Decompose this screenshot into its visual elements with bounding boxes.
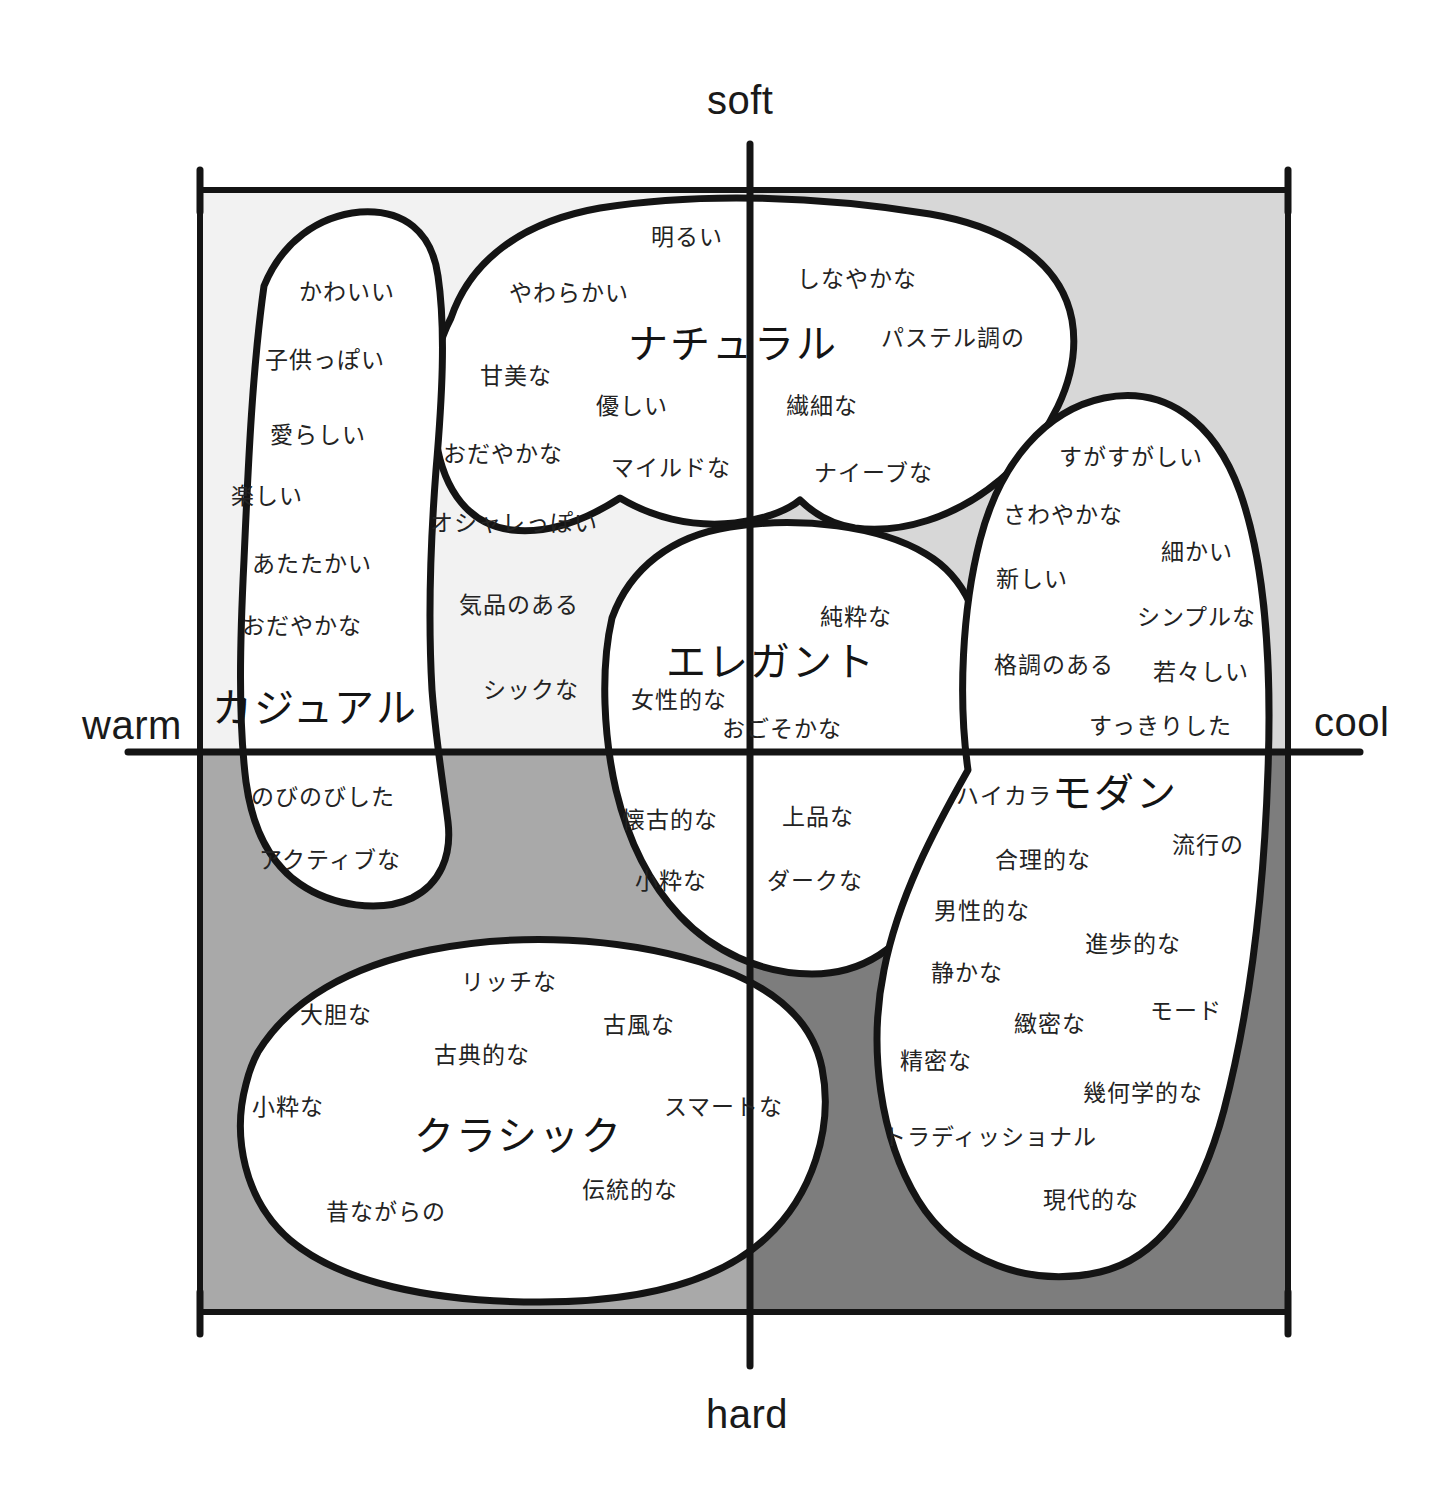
axis-label-soft: soft — [707, 78, 773, 123]
term-word: さわやかな — [1003, 496, 1123, 530]
region-name-classic: クラシック — [414, 1104, 623, 1162]
region-name-modern: モダン — [1052, 761, 1178, 819]
term-word: 小粋な — [635, 862, 707, 896]
term-word: 合理的な — [995, 841, 1091, 875]
term-word: 新しい — [996, 560, 1068, 594]
term-word: 明るい — [651, 218, 723, 252]
term-word: シックな — [483, 671, 579, 705]
term-word: のびのびした — [251, 778, 395, 812]
term-word: 静かな — [931, 954, 1003, 988]
term-word: 楽しい — [231, 477, 303, 511]
term-word: 愛らしい — [270, 416, 366, 450]
region-name-casual: カジュアル — [212, 676, 418, 734]
term-word: 幾何学的な — [1083, 1074, 1203, 1108]
axis-label-cool: cool — [1314, 700, 1389, 745]
term-word: ダークな — [767, 862, 863, 896]
axis-label-hard: hard — [706, 1392, 788, 1437]
term-word: やわらかい — [509, 274, 629, 308]
term-word: 上品な — [782, 798, 854, 832]
term-word: おごそかな — [722, 710, 842, 744]
term-word: 伝統的な — [582, 1171, 678, 1205]
term-word: 現代的な — [1043, 1181, 1139, 1215]
term-word: 緻密な — [1014, 1005, 1086, 1039]
term-word: 気品のある — [459, 586, 579, 620]
term-word: ハイカラ — [956, 777, 1052, 811]
term-word: トラディッショナル — [883, 1118, 1097, 1152]
term-word: おだやかな — [443, 435, 563, 469]
term-word: 女性的な — [631, 681, 727, 715]
term-word: 懐古的な — [622, 801, 718, 835]
term-word: 格調のある — [994, 646, 1114, 680]
term-word: 大胆な — [300, 996, 372, 1030]
term-word: モード — [1150, 992, 1222, 1026]
term-word: シンプルな — [1137, 598, 1256, 632]
term-word: 子供っぽい — [265, 341, 385, 375]
term-word: 甘美な — [480, 357, 552, 391]
term-word: 優しい — [596, 387, 668, 421]
term-word: 純粋な — [820, 598, 892, 632]
term-word: アクティブな — [259, 841, 401, 875]
term-word: パステル調の — [881, 319, 1025, 353]
axis-label-warm: warm — [82, 703, 182, 748]
term-word: すっきりした — [1089, 707, 1232, 741]
term-word: すがすがしい — [1059, 438, 1203, 472]
term-word: 細かい — [1161, 533, 1233, 567]
term-word: スマートな — [664, 1088, 783, 1122]
term-word: 小粋な — [252, 1088, 324, 1122]
term-word: 男性的な — [934, 892, 1030, 926]
term-word: 進歩的な — [1085, 925, 1181, 959]
term-word: 繊細な — [786, 387, 858, 421]
term-word: 若々しい — [1153, 653, 1249, 687]
term-word: しなやかな — [797, 260, 917, 294]
term-word: あたたかい — [252, 545, 372, 579]
term-word: リッチな — [461, 963, 557, 997]
term-word: 昔ながらの — [326, 1193, 446, 1227]
term-word: オシャレっぽい — [430, 504, 598, 538]
term-word: 精密な — [900, 1042, 972, 1076]
term-word: ナイーブな — [814, 454, 933, 488]
region-name-natural: ナチュラル — [628, 312, 838, 370]
scale-canvas — [0, 0, 1453, 1501]
term-word: マイルドな — [611, 449, 731, 483]
term-word: 古風な — [603, 1006, 675, 1040]
term-word: おだやかな — [242, 607, 362, 641]
term-word: 流行の — [1172, 826, 1244, 860]
term-word: かわいい — [299, 273, 395, 307]
term-word: 古典的な — [434, 1036, 530, 1070]
image-scale-diagram: soft hard warm cool カジュアルかわいい子供っぽい愛らしい楽し… — [0, 0, 1453, 1501]
region-name-elegant: エレガント — [666, 630, 876, 688]
